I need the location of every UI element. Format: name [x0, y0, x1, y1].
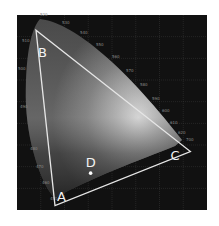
wavelength-label: 700 [186, 137, 194, 142]
wavelength-label: 500 [18, 66, 26, 71]
vertex-label-a: A [57, 189, 66, 204]
chromaticity-diagram: 5205305405505605705805906006106207005105… [0, 0, 219, 226]
wavelength-label: 560 [112, 54, 120, 59]
wavelength-label: 530 [62, 20, 70, 25]
wavelength-label: 550 [96, 42, 104, 47]
vertex-label-c: C [170, 148, 179, 163]
wavelength-label: 600 [162, 108, 170, 113]
wavelength-label: 480 [30, 146, 38, 151]
wavelength-label: 570 [126, 68, 134, 73]
point-d-marker [89, 171, 93, 175]
point-label-d: D [86, 155, 96, 170]
wavelength-label: 460 [42, 180, 50, 185]
wavelength-label: 490 [20, 104, 28, 109]
wavelength-label: 580 [140, 82, 148, 87]
vertex-label-b: B [38, 45, 47, 60]
wavelength-label: 470 [36, 164, 44, 169]
wavelength-label: 590 [152, 96, 160, 101]
wavelength-label: 520 [40, 12, 48, 17]
wavelength-label: 510 [22, 38, 30, 43]
wavelength-label: 620 [178, 130, 186, 135]
wavelength-label: 540 [80, 30, 88, 35]
wavelength-label: 610 [170, 120, 178, 125]
